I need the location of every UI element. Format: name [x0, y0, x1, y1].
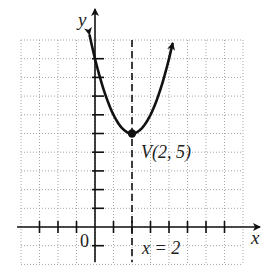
axes [17, 9, 260, 262]
x-axis-label: x [250, 227, 260, 248]
vertex-label: V(2, 5) [141, 142, 191, 163]
origin-label: 0 [80, 231, 89, 251]
vertex-point [128, 129, 136, 137]
parabola-graph: y x 0 V(2, 5) x = 2 [0, 0, 274, 279]
symmetry-label: x = 2 [141, 238, 180, 258]
y-axis-label: y [76, 9, 87, 30]
parabola-curve [89, 35, 172, 134]
